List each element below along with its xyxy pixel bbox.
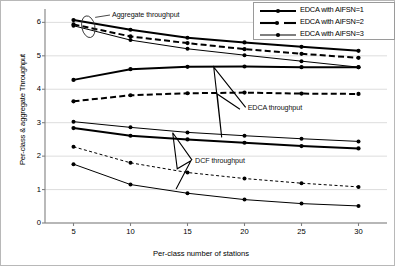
dcf-leader-line [173,133,192,189]
y-axis-label: Per-class & aggregate Throughput [18,35,27,185]
annotation-dcf-throughput: DCF throughput [195,156,245,165]
y-tick-5: 5 [27,51,41,60]
figure-frame: Per-class & aggregate Throughput Per-cla… [0,0,395,266]
axes [42,9,387,226]
x-tick-10: 10 [119,227,143,236]
legend: EDCA with AIFSN=1 EDCA with AIFSN=2 EDCA… [253,2,395,40]
edca-leader-line [214,67,246,137]
legend-label-aifsn-3: EDCA with AIFSN=3 [300,29,364,38]
legend-item-aifsn-3: EDCA with AIFSN=3 [254,29,396,41]
series-dcf-aifsn2 [72,145,361,189]
x-tick-20: 20 [233,227,257,236]
y-tick-6: 6 [27,17,41,26]
legend-swatch-aifsn-2 [258,17,298,29]
x-tick-5: 5 [62,227,86,236]
annotation-edca-throughput: EDCA throughput [248,103,302,112]
legend-item-aifsn-1: EDCA with AIFSN=1 [254,5,396,17]
legend-item-aifsn-2: EDCA with AIFSN=2 [254,17,396,29]
series-dcf-aifsn3 [72,162,361,208]
annotation-aggregate-throughput: Aggregate throughput [112,10,180,19]
x-tick-15: 15 [176,227,200,236]
y-tick-2: 2 [27,151,41,160]
y-tick-1: 1 [27,185,41,194]
legend-swatch-aifsn-3 [258,29,298,41]
legend-label-aifsn-1: EDCA with AIFSN=1 [300,5,364,14]
y-tick-3: 3 [27,118,41,127]
series-dcf-aifsn1 [71,126,360,151]
x-tick-30: 30 [347,227,371,236]
series-edca-aifsn2 [71,90,360,103]
legend-label-aifsn-2: EDCA with AIFSN=2 [300,17,364,26]
x-axis-label: Per-class number of stations [41,249,361,258]
legend-swatch-aifsn-1 [258,5,298,17]
series-edca-aifsn3 [72,120,361,144]
y-tick-0: 0 [27,218,41,227]
y-tick-4: 4 [27,84,41,93]
series-layer [71,18,360,208]
x-tick-25: 25 [290,227,314,236]
series-edca-aifsn1 [71,64,360,82]
